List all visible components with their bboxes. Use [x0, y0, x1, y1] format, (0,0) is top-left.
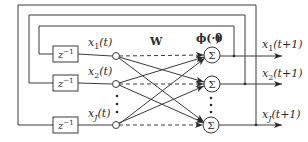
delay-box-J: z−1	[53, 117, 78, 133]
recurrent-network-diagram: z−1 z−1 z−1 x1(t) x2(t) xJ(t)	[0, 0, 308, 142]
feedback-loops	[18, 5, 256, 125]
output-label-J: xJ(t+1)	[262, 108, 301, 123]
input-label-1: x1(t)	[88, 36, 112, 51]
delay-box-2: z−1	[53, 75, 78, 91]
output-labels: x1(t+1) x2(t+1) xJ(t+1)	[262, 38, 303, 123]
output-label-2: x2(t+1)	[262, 67, 303, 82]
input-nodes	[113, 53, 120, 129]
sum-node-J: Σ	[203, 117, 219, 133]
input-node-2	[113, 81, 120, 88]
output-label-1: x1(t+1)	[262, 38, 303, 53]
svg-text:Σ: Σ	[208, 79, 215, 90]
delay-units: z−1 z−1 z−1	[53, 46, 78, 133]
weight-connections	[119, 55, 205, 125]
output-ellipsis	[210, 97, 213, 114]
input-label-J: xJ(t)	[88, 107, 110, 122]
svg-text:Σ: Σ	[208, 50, 215, 61]
input-node-J	[113, 122, 120, 129]
input-label-2: x2(t)	[88, 65, 112, 80]
summation-nodes: Σ Σ Σ	[203, 47, 220, 133]
sum-node-1: Σ	[204, 47, 220, 63]
threshold-label: θ	[215, 32, 222, 45]
input-node-1	[113, 53, 120, 60]
delay-box-1: z−1	[53, 46, 78, 62]
weight-matrix-label: W	[149, 35, 163, 48]
feedback-loop-J	[18, 5, 256, 125]
sum-node-2: Σ	[204, 76, 220, 92]
input-labels: x1(t) x2(t) xJ(t)	[88, 36, 112, 122]
svg-text:Σ: Σ	[207, 120, 214, 131]
input-ellipsis	[116, 95, 119, 114]
